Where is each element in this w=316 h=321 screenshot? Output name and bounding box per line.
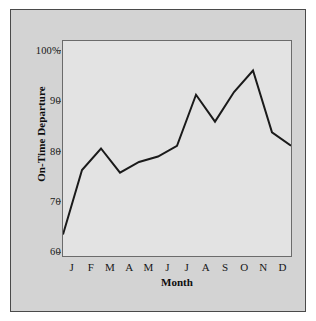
x-tick-label-nov: N [254,259,273,277]
x-tick-label-may: M [139,259,158,277]
x-tick-label-sep: S [215,259,234,277]
x-tick-label-jan: J [62,259,81,277]
x-axis-tick-labels: J F M A M J J A S O N D [62,259,292,277]
chart-figure: 100% 90 80 70 60 On-Time Departure J F M… [10,9,306,312]
x-tick-label-jun: J [158,259,177,277]
x-tick-label-mar: M [100,259,119,277]
x-tick-label-oct: O [235,259,254,277]
x-tick-label-dec: D [273,259,292,277]
y-axis-title: On-Time Departure [35,54,47,214]
y-tick-mark-80 [56,151,61,152]
plot-area [62,40,292,257]
x-tick-label-aug: A [196,259,215,277]
y-tick-mark-90 [56,101,61,102]
line-series-svg [63,41,291,256]
y-tick-mark-100 [56,50,61,51]
y-tick-mark-60 [56,252,61,253]
on-time-departure-line [63,71,291,235]
x-tick-label-apr: A [120,259,139,277]
x-tick-label-jul: J [177,259,196,277]
x-tick-label-feb: F [81,259,100,277]
x-axis-title: Month [62,276,292,288]
y-tick-mark-70 [56,201,61,202]
